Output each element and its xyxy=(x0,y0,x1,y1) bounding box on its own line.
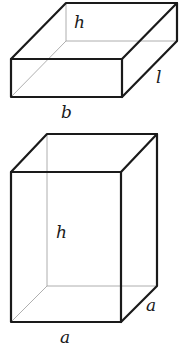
label-a-depth: a xyxy=(146,295,156,315)
label-a-width: a xyxy=(60,327,70,347)
label-h-bottom: h xyxy=(56,222,67,242)
cuboids-diagram: h l b h a a xyxy=(0,0,185,352)
top-cuboid: h l b xyxy=(11,3,177,122)
bottom-cuboid: h a a xyxy=(11,134,157,347)
label-b: b xyxy=(61,102,72,122)
label-h-top: h xyxy=(74,12,85,32)
label-l: l xyxy=(156,67,161,87)
side-face xyxy=(121,134,157,322)
top-face xyxy=(11,134,157,172)
front-face xyxy=(11,59,122,97)
front-face xyxy=(11,172,121,322)
top-face xyxy=(11,3,177,59)
hidden-edge xyxy=(11,286,47,322)
